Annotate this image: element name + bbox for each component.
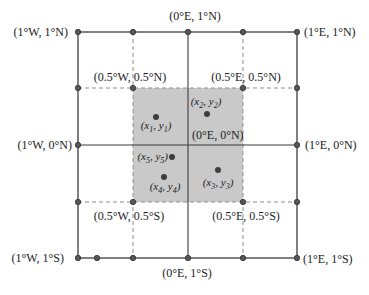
label-1w-0n: (1°W, 0°N) <box>18 138 72 152</box>
grid-node-dot-11 <box>75 199 80 204</box>
label-1e-0n: (1°E, 0°N) <box>305 138 357 152</box>
label-05w-05n: (0.5°W, 0.5°N) <box>94 70 166 84</box>
point-2-dot <box>204 111 210 117</box>
grid-node-dot-17 <box>130 255 135 260</box>
label-05w-05s: (0.5°W, 0.5°S) <box>94 209 165 223</box>
grid-node-dot-10 <box>294 142 299 147</box>
grid-node-dot-15 <box>75 255 80 260</box>
grid-node-dot-0 <box>75 29 80 34</box>
grid-node-dot-8 <box>294 85 299 90</box>
grid-node-dot-6 <box>130 85 135 90</box>
grid-node-dot-12 <box>130 199 135 204</box>
label-0e-1s: (0°E, 1°S) <box>162 266 212 280</box>
grid-node-dot-14 <box>294 199 299 204</box>
grid-node-dot-5 <box>75 85 80 90</box>
grid-node-dot-9 <box>75 142 80 147</box>
grid-node-dot-1 <box>130 29 135 34</box>
grid-node-dot-4 <box>294 29 299 34</box>
label-1w-1n: (1°W, 1°N) <box>14 25 68 39</box>
label-1e-1s: (1°E, 1°S) <box>303 252 353 266</box>
grid-node-dot-20 <box>294 255 299 260</box>
label-05e-05s: (0.5°E, 0.5°S) <box>212 209 280 223</box>
grid-diagram-svg: (0°E, 1°N)(1°W, 1°N)(1°E, 1°N)(0.5°W, 0.… <box>0 0 369 295</box>
label-05e-05n: (0.5°E, 0.5°N) <box>211 70 281 84</box>
label-0e-0n: (0°E, 0°N) <box>192 128 244 142</box>
label-1e-1n: (1°E, 1°N) <box>304 25 356 39</box>
interpolation-grid-figure: (0°E, 1°N)(1°W, 1°N)(1°E, 1°N)(0.5°W, 0.… <box>0 0 369 295</box>
point-3-dot <box>215 167 221 173</box>
label-0e-1n: (0°E, 1°N) <box>169 9 221 23</box>
grid-node-dot-2 <box>185 29 190 34</box>
grid-node-dot-7 <box>240 85 245 90</box>
label-1w-1s: (1°W, 1°S) <box>12 251 65 265</box>
grid-node-dot-19 <box>240 255 245 260</box>
grid-node-dot-16 <box>94 255 99 260</box>
grid-node-dot-3 <box>240 29 245 34</box>
grid-node-dot-18 <box>185 255 190 260</box>
point-5-dot <box>169 154 175 160</box>
grid-node-dot-13 <box>240 199 245 204</box>
